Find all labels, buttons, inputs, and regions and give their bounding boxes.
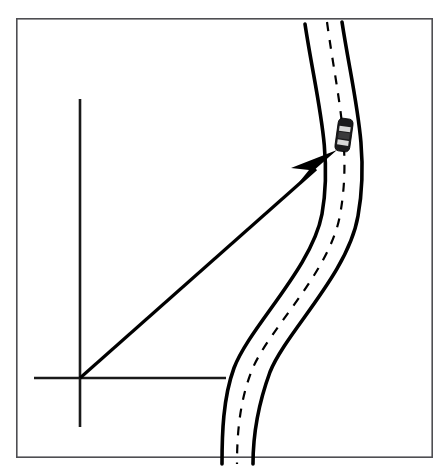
figure-root: Vehicle position vector on a curved road…	[0, 0, 447, 472]
diagram-canvas	[0, 0, 447, 472]
